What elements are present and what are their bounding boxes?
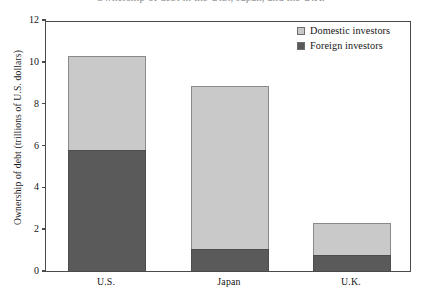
y-tick-label: 6: [34, 138, 39, 154]
y-tick-label: 10: [29, 54, 39, 70]
legend-label: Domestic investors: [310, 24, 390, 39]
legend-swatch: [297, 27, 305, 35]
y-tick-mark: [42, 61, 46, 62]
bar-stack[interactable]: [68, 56, 146, 271]
x-axis-category-label: U.K.: [306, 276, 396, 287]
bar-segment-foreign[interactable]: [191, 249, 269, 271]
y-tick-label: 12: [29, 12, 39, 28]
y-tick-label: 0: [34, 263, 39, 279]
x-axis-category-label: Japan: [184, 276, 274, 287]
bar-stack[interactable]: [313, 223, 391, 271]
bar-segment-domestic[interactable]: [68, 56, 146, 150]
chart-legend: Domestic investorsForeign investors: [297, 24, 390, 53]
bar-segment-domestic[interactable]: [313, 223, 391, 255]
y-axis-title: Ownership of debt (trillions of U.S. dol…: [12, 13, 23, 263]
y-tick-mark: [42, 270, 46, 271]
bar-segment-domestic[interactable]: [191, 86, 269, 249]
bar-segment-foreign[interactable]: [313, 255, 391, 271]
y-tick-mark: [42, 103, 46, 104]
y-tick-label: 8: [34, 96, 39, 112]
y-tick-label: 4: [34, 179, 39, 195]
x-axis-category-label: U.S.: [61, 276, 151, 287]
legend-label: Foreign investors: [310, 39, 383, 54]
y-tick-mark: [42, 187, 46, 188]
legend-item[interactable]: Foreign investors: [297, 39, 390, 54]
figure: Ownership of debt in the U.S., Japan, an…: [0, 0, 421, 288]
legend-swatch: [297, 42, 305, 50]
y-tick-mark: [42, 145, 46, 146]
y-tick-mark: [42, 19, 46, 20]
bar-stack[interactable]: [191, 86, 269, 271]
clipped-title: Ownership of debt in the U.S., Japan, an…: [0, 0, 421, 3]
y-tick-label: 2: [34, 221, 39, 237]
plot-area: 024681012: [45, 21, 411, 272]
legend-item[interactable]: Domestic investors: [297, 24, 390, 39]
y-tick-mark: [42, 228, 46, 229]
bar-segment-foreign[interactable]: [68, 150, 146, 271]
